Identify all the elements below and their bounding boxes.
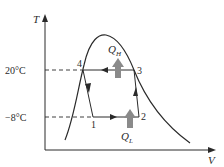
tv-diagram: T V 20°C −8°C QH QL 4 3 1 2 (0, 0, 224, 167)
process-4-1 (83, 70, 93, 117)
v-axis-label: V (208, 154, 216, 166)
t-axis-arrow-icon (42, 14, 48, 22)
state-4-label: 4 (77, 58, 82, 69)
t-axis-label: T (33, 13, 40, 25)
state-1-label: 1 (91, 119, 96, 130)
state-3-label: 3 (137, 65, 142, 76)
v-axis-arrow-icon (208, 147, 216, 153)
high-temp-label: 20°C (5, 65, 26, 76)
heat-low-label: QL (121, 130, 133, 145)
state-2-label: 2 (141, 111, 146, 122)
low-temp-label: −8°C (5, 112, 27, 123)
arrow-1-2-icon (110, 114, 117, 120)
heat-in-arrow-icon (124, 109, 136, 128)
heat-out-arrow-icon (112, 58, 124, 78)
